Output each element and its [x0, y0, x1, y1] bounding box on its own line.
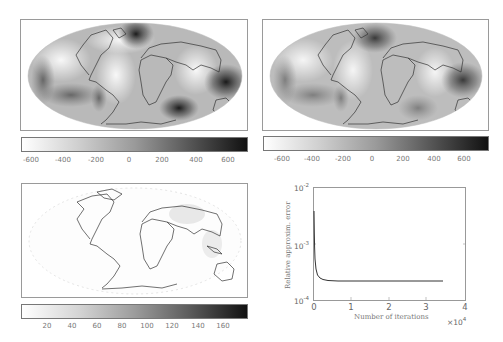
- xtick-label: 1: [348, 302, 353, 312]
- colorbar-tick-label: 600: [221, 156, 234, 164]
- colorbar-tick-label: -200: [88, 156, 104, 164]
- colorbar-tick-label: -600: [23, 156, 39, 164]
- ytick-label: 10-4: [283, 295, 309, 306]
- colorbar-tick-label: 600: [457, 155, 470, 163]
- colorbar-tick-label: 400: [189, 156, 202, 164]
- map-frame: [21, 183, 248, 298]
- mollweide-map: [21, 20, 249, 132]
- colorbar: [21, 137, 248, 152]
- colorbar-tick-label: 200: [155, 156, 168, 164]
- mollweide-map: [22, 184, 249, 299]
- convergence-plot-axes: [313, 187, 466, 301]
- colorbar-tick-label: 40: [68, 322, 77, 330]
- colorbar-tick-label: -200: [335, 155, 351, 163]
- xtick-label: 3: [423, 302, 428, 312]
- colorbar-tick-label: 0: [370, 155, 374, 163]
- colorbar: [21, 304, 248, 319]
- map-frame: [262, 19, 489, 131]
- mollweide-map: [263, 20, 490, 132]
- x-axis-title: Number of iterations: [354, 313, 429, 321]
- y-axis-title: Relative approxim. error: [284, 201, 292, 289]
- colorbar-tick-label: 400: [427, 155, 440, 163]
- colorbar: [263, 136, 489, 151]
- colorbar-tick-label: 200: [396, 155, 409, 163]
- xtick-label: 0: [311, 302, 316, 312]
- colorbar-tick-label: -400: [304, 155, 320, 163]
- map-frame: [20, 19, 248, 131]
- x-axis-multiplier: ×104: [447, 316, 466, 327]
- colorbar-tick-label: 140: [191, 322, 204, 330]
- colorbar-tick-label: 80: [118, 322, 127, 330]
- colorbar-tick-label: 20: [43, 322, 52, 330]
- xtick-label: 2: [386, 302, 391, 312]
- xtick-label: 4: [462, 302, 467, 312]
- colorbar-tick-label: 160: [216, 322, 229, 330]
- colorbar-tick-label: -400: [55, 156, 71, 164]
- colorbar-tick-label: -600: [274, 155, 290, 163]
- colorbar-tick-label: 60: [93, 322, 102, 330]
- colorbar-tick-label: 0: [127, 156, 131, 164]
- colorbar-tick-label: 100: [140, 322, 153, 330]
- colorbar-tick-label: 120: [165, 322, 178, 330]
- ytick-label: 10-2: [283, 182, 309, 193]
